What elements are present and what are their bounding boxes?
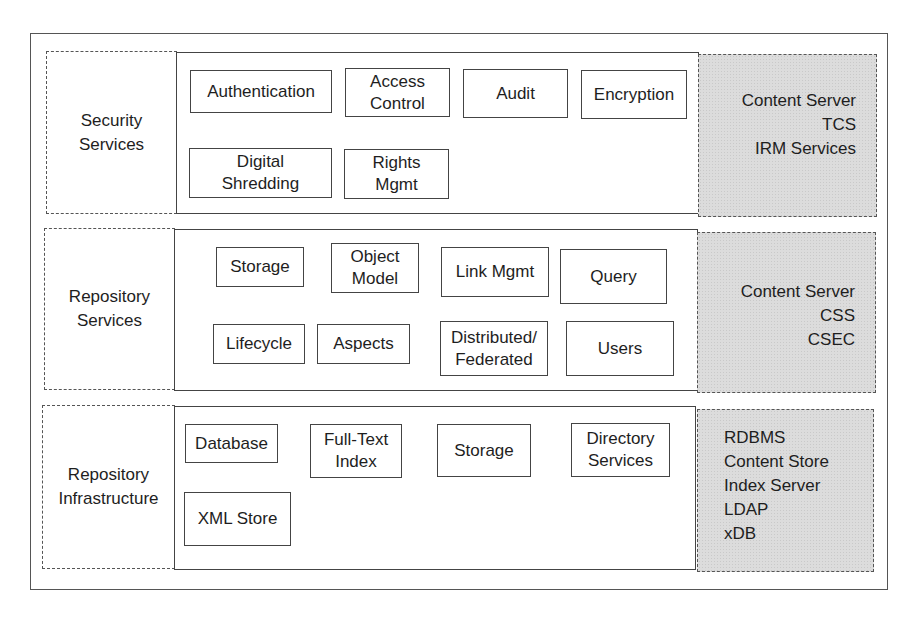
implementation-item: Content Store <box>724 450 829 474</box>
implementation-item: TCS <box>822 113 856 137</box>
component-full-text-index: Full-Text Index <box>310 424 402 478</box>
component-authentication: Authentication <box>190 70 332 113</box>
component-rights-mgmt: Rights Mgmt <box>344 149 449 199</box>
component-xml-store: XML Store <box>184 492 291 546</box>
layer-label-repository-services: Repository Services <box>44 228 175 390</box>
implementation-item: LDAP <box>724 498 768 522</box>
component-aspects: Aspects <box>317 324 410 364</box>
layer-label-line: Repository <box>58 463 158 487</box>
component-database: Database <box>185 424 278 463</box>
component-link-mgmt: Link Mgmt <box>441 247 549 297</box>
layer-label-line: Security <box>79 109 144 133</box>
implementation-item: RDBMS <box>724 426 785 450</box>
component-encryption: Encryption <box>581 70 687 119</box>
implementation-item: Index Server <box>724 474 820 498</box>
layer-label-repository-infrastructure: Repository Infrastructure <box>42 405 175 569</box>
implementation-panel-repository-services: Content Server CSS CSEC <box>697 232 876 393</box>
component-object-model: Object Model <box>331 243 419 293</box>
implementation-panel-repository-infrastructure: RDBMS Content Store Index Server LDAP xD… <box>697 409 874 572</box>
layer-label-line: Infrastructure <box>58 487 158 511</box>
component-storage: Storage <box>216 247 304 287</box>
component-lifecycle: Lifecycle <box>213 324 305 364</box>
component-users: Users <box>566 321 674 376</box>
implementation-item: xDB <box>724 522 756 546</box>
implementation-item: CSEC <box>808 328 855 352</box>
component-query: Query <box>560 249 667 304</box>
component-audit: Audit <box>463 69 568 118</box>
component-storage-infra: Storage <box>437 424 531 477</box>
component-access-control: Access Control <box>345 68 450 117</box>
layer-label-security-services: Security Services <box>46 51 177 214</box>
layer-label-line: Services <box>79 133 144 157</box>
implementation-item: Content Server <box>742 89 856 113</box>
implementation-panel-security: Content Server TCS IRM Services <box>698 54 877 217</box>
component-digital-shredding: Digital Shredding <box>189 148 332 198</box>
layer-label-line: Services <box>69 309 150 333</box>
implementation-item: IRM Services <box>755 137 856 161</box>
implementation-item: CSS <box>820 304 855 328</box>
layer-label-line: Repository <box>69 285 150 309</box>
component-directory-services: Directory Services <box>571 423 670 477</box>
component-distributed-federated: Distributed/ Federated <box>440 321 548 376</box>
implementation-item: Content Server <box>741 280 855 304</box>
